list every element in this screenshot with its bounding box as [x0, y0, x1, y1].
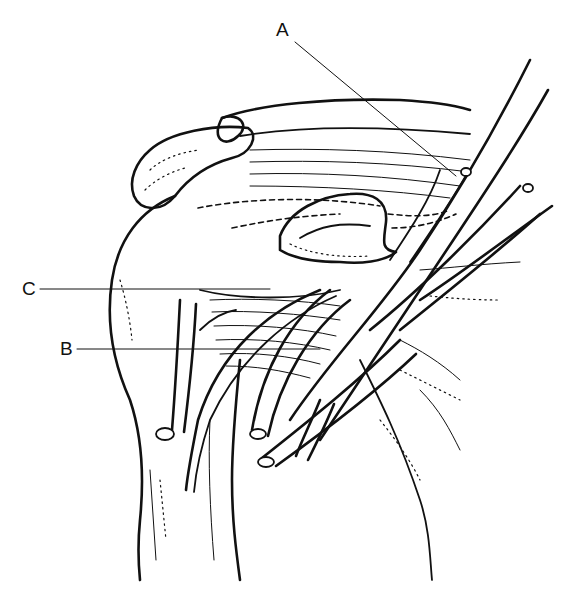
- label-a: A: [276, 20, 289, 39]
- leader-line-a: [295, 42, 456, 176]
- scapula-outline: [360, 360, 460, 580]
- leader-lines: [40, 42, 456, 349]
- nerve-bundle: [290, 60, 552, 440]
- clavicle-outline: [218, 100, 470, 142]
- label-b: B: [60, 339, 73, 358]
- coracoid-process: [280, 194, 396, 263]
- drawing: [0, 0, 572, 590]
- ligament-dashes: [198, 200, 456, 229]
- label-c: C: [22, 279, 36, 298]
- anatomical-diagram: A B C: [0, 0, 572, 590]
- vessels: [156, 290, 416, 492]
